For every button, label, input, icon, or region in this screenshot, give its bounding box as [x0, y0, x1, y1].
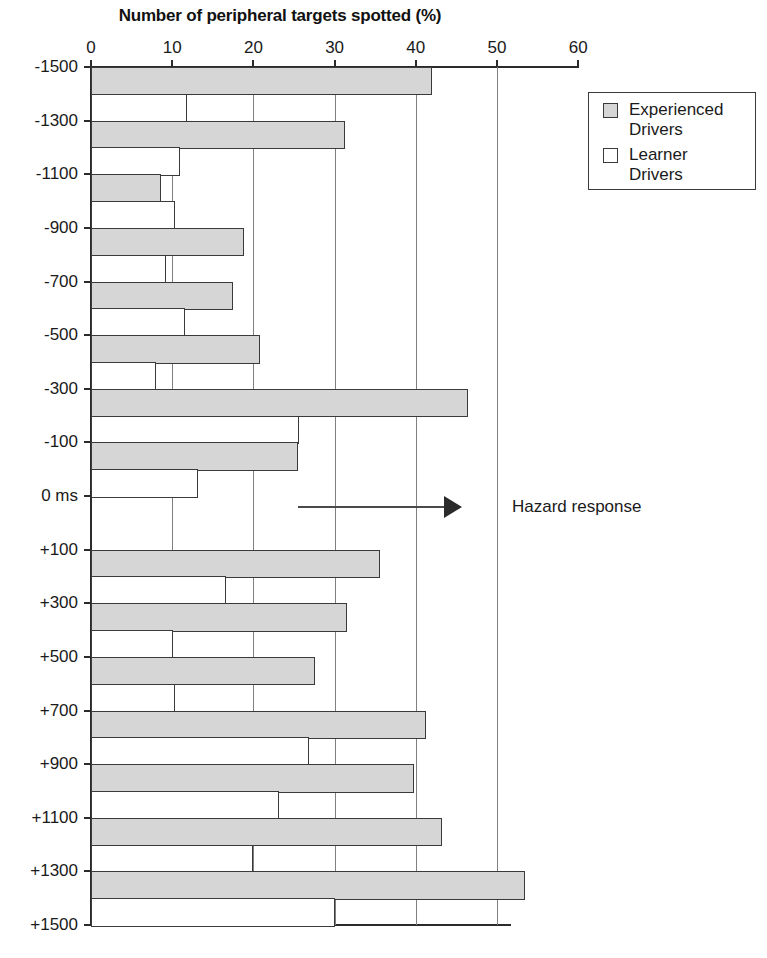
hazard-response-label: Hazard response [512, 497, 641, 517]
y-tick-label: -100 [0, 432, 78, 452]
bar-experienced [91, 174, 161, 202]
bar-experienced [91, 121, 345, 149]
legend-label-learner: Learner Drivers [629, 145, 688, 185]
bar-learner [91, 576, 226, 604]
bar-learner [91, 630, 173, 658]
y-tick-label: -1500 [0, 57, 78, 77]
x-tick-label: 20 [244, 38, 263, 58]
bar-learner [91, 362, 156, 390]
y-tick-label: +100 [0, 540, 78, 560]
y-tick-label: -1100 [0, 164, 78, 184]
x-tick-label: 50 [488, 38, 507, 58]
y-tick-label: +1300 [0, 861, 78, 881]
bar-learner [91, 147, 180, 175]
x-tick-label: 40 [406, 38, 425, 58]
bar-experienced [91, 550, 380, 578]
y-tick-label: -500 [0, 325, 78, 345]
legend-item-learner: Learner Drivers [603, 145, 755, 185]
bar-experienced [91, 764, 414, 792]
y-tick-label: +1500 [0, 915, 78, 935]
bar-experienced [91, 442, 298, 470]
bars-layer [91, 67, 578, 925]
hazard-response-arrow-icon [444, 496, 462, 518]
bar-experienced [91, 711, 426, 739]
bar-learner [91, 201, 175, 229]
x-tick-label: 10 [163, 38, 182, 58]
y-tick-label: 0 ms [0, 486, 78, 506]
y-tick-label: +900 [0, 754, 78, 774]
bar-learner [91, 791, 279, 819]
legend-swatch-experienced-icon [603, 103, 618, 118]
y-tick-label: +700 [0, 701, 78, 721]
x-tick-label: 30 [325, 38, 344, 58]
bar-learner [91, 737, 309, 765]
y-tick-label: -700 [0, 272, 78, 292]
y-tick-label: -300 [0, 379, 78, 399]
bar-learner [91, 898, 335, 926]
x-tick-label: 60 [569, 38, 588, 58]
legend-swatch-learner-icon [603, 148, 618, 163]
bar-experienced [91, 603, 347, 631]
bar-experienced [91, 389, 468, 417]
chart-figure: Number of peripheral targets spotted (%)… [0, 0, 767, 958]
bar-learner [91, 469, 198, 497]
bar-learner [91, 684, 175, 712]
y-tick-label: -900 [0, 218, 78, 238]
bar-experienced [91, 335, 260, 363]
bar-learner [91, 255, 166, 283]
bar-learner [91, 845, 253, 873]
chart-legend: Experienced Drivers Learner Drivers [588, 92, 756, 190]
y-tick-label: +500 [0, 647, 78, 667]
bar-learner [91, 308, 185, 336]
bar-experienced [91, 67, 432, 95]
hazard-response-leader-line [298, 506, 444, 508]
y-tick-label: +1100 [0, 808, 78, 828]
legend-item-experienced: Experienced Drivers [603, 100, 755, 140]
bar-learner [91, 416, 299, 444]
bar-experienced [91, 818, 442, 846]
bar-experienced [91, 657, 315, 685]
bar-experienced [91, 282, 233, 310]
y-tick-label: -1300 [0, 111, 78, 131]
bar-learner [91, 94, 187, 122]
x-tick-label: 0 [86, 38, 95, 58]
bar-experienced [91, 871, 525, 899]
legend-label-experienced: Experienced Drivers [629, 100, 724, 140]
y-tick-label: +300 [0, 593, 78, 613]
bar-experienced [91, 228, 244, 256]
chart-title: Number of peripheral targets spotted (%) [0, 6, 560, 26]
